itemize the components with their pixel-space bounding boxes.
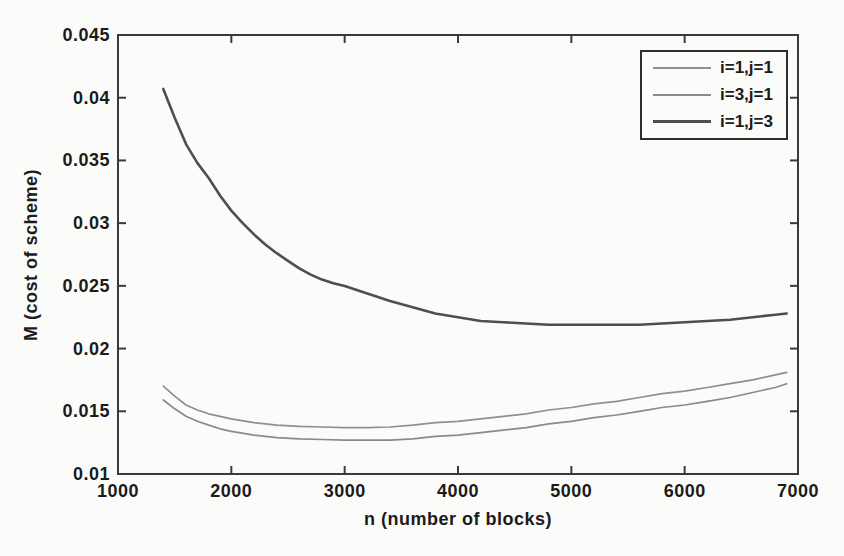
x-tick-label: 7000 bbox=[758, 481, 838, 502]
figure-container: 0.010.0150.020.0250.030.0350.040.045 100… bbox=[0, 0, 844, 556]
legend-line-sample bbox=[653, 94, 711, 96]
x-axis-label: n (number of blocks) bbox=[308, 509, 608, 530]
x-tick-label: 5000 bbox=[531, 481, 611, 502]
legend-item-label: i=3,j=1 bbox=[720, 85, 773, 105]
legend-item-label: i=1,j=3 bbox=[720, 112, 773, 132]
legend-item: i=1,j=3 bbox=[642, 112, 786, 132]
y-tick-label: 0.03 bbox=[34, 213, 110, 234]
y-tick-label: 0.015 bbox=[34, 401, 110, 422]
x-tick-label: 2000 bbox=[191, 481, 271, 502]
y-tick-label: 0.02 bbox=[34, 339, 110, 360]
x-tick-label: 1000 bbox=[78, 481, 158, 502]
y-tick-label: 0.045 bbox=[34, 25, 110, 46]
x-tick-label: 3000 bbox=[305, 481, 385, 502]
y-tick-label: 0.035 bbox=[34, 150, 110, 171]
legend-item: i=1,j=1 bbox=[642, 58, 786, 78]
legend-line-sample bbox=[653, 120, 711, 123]
y-tick-label: 0.025 bbox=[34, 276, 110, 297]
legend: i=1,j=1i=3,j=1i=1,j=3 bbox=[640, 50, 788, 140]
x-tick-label: 4000 bbox=[418, 481, 498, 502]
y-axis-label: M (cost of scheme) bbox=[21, 145, 43, 365]
x-tick-label: 6000 bbox=[645, 481, 725, 502]
legend-item-label: i=1,j=1 bbox=[720, 58, 773, 78]
series-line-i=1,j=1 bbox=[163, 372, 786, 427]
legend-line-sample bbox=[653, 67, 711, 69]
legend-item: i=3,j=1 bbox=[642, 85, 786, 105]
series-line-i=3,j=1 bbox=[163, 384, 786, 440]
y-tick-label: 0.04 bbox=[34, 88, 110, 109]
